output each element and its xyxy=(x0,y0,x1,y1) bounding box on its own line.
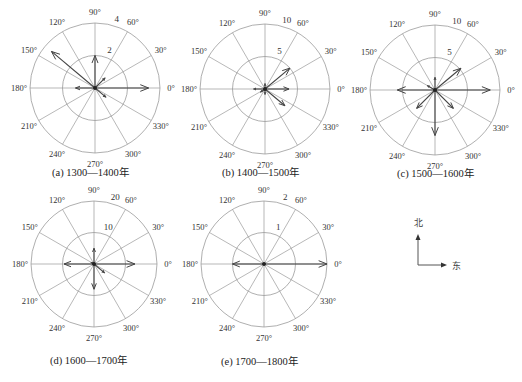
angle-label: 60° xyxy=(295,195,307,205)
polar-chart-e: 0°30°60°90°120°150°180°210°240°270°300°3… xyxy=(182,185,342,343)
ring-value-label: 10 xyxy=(452,16,462,26)
ring-value-label: 20 xyxy=(111,192,121,202)
ring-value-label: 2 xyxy=(283,192,288,202)
angle-label: 120° xyxy=(49,17,65,27)
spoke-line xyxy=(265,57,321,90)
ring-value-label: 10 xyxy=(104,222,114,232)
polar-chart-d: 0°30°60°90°120°150°180°210°240°270°300°3… xyxy=(12,185,172,343)
spoke-line xyxy=(209,57,265,90)
compass: 北 东 xyxy=(410,228,460,268)
angle-label: 210° xyxy=(361,123,377,133)
angle-label: 0° xyxy=(164,259,172,269)
center-dot xyxy=(433,88,437,92)
spoke-line xyxy=(63,264,95,319)
caption-b: (b) 1400—1500年 xyxy=(222,164,299,179)
ring-value-label: 4 xyxy=(114,14,119,24)
angle-label: 330° xyxy=(150,296,166,306)
vector-arrow xyxy=(435,68,461,90)
angle-label: 210° xyxy=(191,122,207,132)
angle-label: 60° xyxy=(125,195,137,205)
angle-label: 240° xyxy=(49,149,65,159)
angle-label: 90° xyxy=(89,7,101,17)
angle-label: 300° xyxy=(293,323,309,333)
polar-chart-c: 0°30°60°90°120°150°180°210°240°270°300°3… xyxy=(351,9,515,171)
angle-label: 240° xyxy=(49,323,65,333)
center-dot xyxy=(93,86,97,90)
north-label: 北 xyxy=(414,216,423,229)
angle-label: 30° xyxy=(152,222,164,232)
polar-chart-a: 0°30°60°90°120°150°180°210°240°270°300°3… xyxy=(11,7,175,169)
spoke-line xyxy=(63,209,95,264)
spoke-line xyxy=(63,88,96,144)
spoke-line xyxy=(39,56,95,89)
spoke-line xyxy=(94,233,149,265)
spoke-line xyxy=(435,90,491,123)
angle-label: 30° xyxy=(325,46,337,56)
spoke-line xyxy=(95,56,151,89)
angle-label: 30° xyxy=(495,47,507,57)
angle-label: 210° xyxy=(21,121,37,131)
angle-label: 240° xyxy=(219,323,235,333)
angle-label: 300° xyxy=(123,323,139,333)
caption-d: (d) 1600—1700年 xyxy=(50,352,127,367)
angle-label: 210° xyxy=(192,296,208,306)
spoke-line xyxy=(379,90,435,123)
angle-label: 150° xyxy=(21,45,37,55)
spoke-line xyxy=(209,233,264,265)
angle-label: 60° xyxy=(297,18,309,28)
angle-label: 60° xyxy=(127,17,139,27)
angle-label: 300° xyxy=(295,150,311,160)
ring-value-label: 1 xyxy=(276,222,281,232)
spoke-line xyxy=(265,89,298,145)
angle-label: 30° xyxy=(322,222,334,232)
angle-label: 0° xyxy=(337,84,345,94)
angle-label: 180° xyxy=(11,83,27,93)
spoke-line xyxy=(233,209,265,264)
angle-label: 90° xyxy=(258,185,270,195)
angle-label: 120° xyxy=(389,19,405,29)
angle-label: 270° xyxy=(86,333,102,343)
spoke-line xyxy=(435,58,491,91)
angle-label: 180° xyxy=(12,259,28,269)
angle-label: 300° xyxy=(465,151,481,161)
spoke-line xyxy=(264,264,296,319)
ring-value-label: 5 xyxy=(277,46,282,56)
vector-arrow xyxy=(265,89,285,106)
center-dot xyxy=(92,262,96,266)
angle-label: 0° xyxy=(507,85,515,95)
spoke-line xyxy=(209,264,264,296)
angle-label: 90° xyxy=(259,8,271,18)
angle-label: 180° xyxy=(351,85,367,95)
caption-e: (e) 1700—1800年 xyxy=(221,353,298,368)
angle-label: 240° xyxy=(389,151,405,161)
angle-label: 30° xyxy=(155,45,167,55)
arrow-head-icon xyxy=(253,88,256,91)
spoke-line xyxy=(403,34,436,90)
angle-label: 0° xyxy=(167,83,175,93)
spoke-line xyxy=(233,264,265,319)
angle-label: 150° xyxy=(22,222,38,232)
angle-label: 210° xyxy=(22,296,38,306)
vector-arrow xyxy=(51,51,95,88)
angle-label: 300° xyxy=(125,149,141,159)
polar-chart-b: 0°30°60°90°120°150°180°210°240°270°300°3… xyxy=(181,8,345,170)
spoke-line xyxy=(264,233,319,265)
spoke-line xyxy=(233,89,266,145)
spoke-line xyxy=(403,90,436,146)
arrow-head-icon xyxy=(264,92,267,95)
spoke-line xyxy=(94,264,126,319)
angle-label: 120° xyxy=(219,195,235,205)
caption-c: (c) 1500—1600年 xyxy=(397,165,474,180)
spoke-line xyxy=(264,264,319,296)
center-dot xyxy=(262,262,266,266)
east-label: 东 xyxy=(452,259,461,272)
angle-label: 240° xyxy=(219,150,235,160)
center-dot xyxy=(263,87,267,91)
spoke-line xyxy=(63,32,96,88)
spoke-line xyxy=(265,89,321,122)
angle-label: 330° xyxy=(493,123,509,133)
angle-label: 180° xyxy=(182,259,198,269)
angle-label: 150° xyxy=(192,222,208,232)
arrow-head-icon xyxy=(264,83,267,86)
ring-value-label: 2 xyxy=(107,45,112,55)
